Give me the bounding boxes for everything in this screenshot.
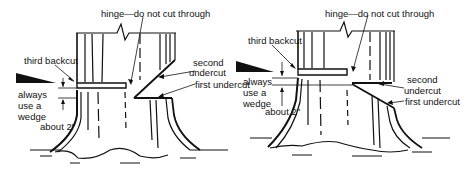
second-undercut-label-line2: undercut (189, 67, 226, 78)
diagram-left-panel: hinge—do not cut through third backcut s… (0, 0, 232, 171)
hinge-label: hinge—do not cut through (101, 8, 210, 19)
wedge-label-line2: use a (18, 100, 41, 111)
wedge-icon (16, 73, 56, 83)
about-2in-label: about 2" (265, 106, 300, 117)
about-2in-label: about 2" (40, 121, 75, 132)
first-undercut-label: first undercut (405, 96, 460, 107)
diagram-right-panel: hinge—do not cut through third backcut s… (232, 0, 465, 171)
wedge-label-line2: use a (243, 87, 266, 98)
second-undercut-label-line2: undercut (404, 85, 441, 96)
second-undercut-label-line1: second (407, 74, 438, 85)
hinge-label: hinge—do not cut through (325, 8, 434, 19)
third-backcut-label: third backcut (248, 35, 302, 46)
wedge-label-line1: always (243, 76, 272, 87)
wedge-icon (236, 61, 274, 72)
third-backcut-label: third backcut (24, 55, 78, 66)
wedge-label-line1: always (18, 89, 47, 100)
